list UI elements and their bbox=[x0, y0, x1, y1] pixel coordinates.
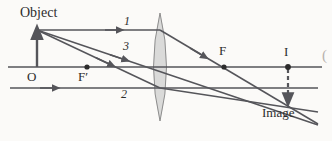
ray-1-refracted-arrow bbox=[190, 48, 205, 57]
object-label: Object bbox=[20, 6, 57, 20]
back-focal-point-label: F bbox=[219, 44, 226, 57]
ray-1-label: 1 bbox=[124, 15, 130, 27]
optical-center-label: O bbox=[27, 70, 36, 83]
ray-2-direction-arrow bbox=[96, 58, 112, 66]
ray-3-label: 3 bbox=[123, 40, 129, 52]
point-back-focus bbox=[221, 64, 226, 69]
edge-mark-label: ( bbox=[322, 48, 327, 63]
point-image-axis bbox=[285, 64, 291, 70]
ray-3-direction-arrow bbox=[110, 55, 126, 60]
ray-2-label: 2 bbox=[121, 88, 127, 100]
image-label: Image bbox=[262, 106, 294, 119]
image-axis-point-label: I bbox=[284, 45, 288, 58]
front-focal-point-label: F′ bbox=[78, 70, 88, 83]
figure-canvas: Object O F′ F I Image 1 3 2 ( bbox=[0, 0, 332, 141]
